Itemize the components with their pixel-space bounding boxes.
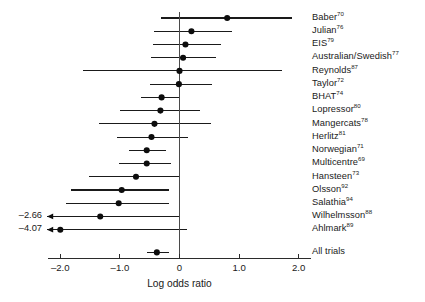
point-estimate-marker [144,160,150,166]
study-label: Hansteen73 [312,171,359,181]
x-axis-title: Log odds ratio [0,278,359,289]
study-name: Herlitz [312,131,339,141]
study-reference-number: 76 [337,23,344,30]
point-estimate-marker [188,28,194,34]
study-name: Ahlmark [312,223,346,233]
study-reference-number: 71 [357,142,364,149]
point-estimate-marker [116,200,122,206]
study-label: Australian/Swedish77 [312,51,399,61]
study-reference-number: 74 [336,89,343,96]
study-label: Herlitz81 [312,131,346,141]
study-label: Mangercats78 [312,118,368,128]
point-estimate-layer [57,15,230,256]
study-reference-number: 89 [346,221,353,228]
study-name: All trials [312,246,345,256]
point-estimate-marker [180,55,186,61]
study-name: Norwegian [312,144,357,154]
point-estimate-marker [157,108,163,114]
x-axis-tick-label: 2.0 [292,262,305,273]
point-estimate-marker [176,81,182,87]
study-label: Baber70 [312,12,344,22]
study-label: Norwegian71 [312,144,364,154]
study-reference-number: 79 [327,36,334,43]
study-name: Australian/Swedish [312,51,392,61]
study-name: Multicentre [312,157,358,167]
point-estimate-marker [97,213,103,219]
study-label: Wilhelmsson88 [312,210,372,220]
study-name: Hansteen [312,171,352,181]
study-label: All trials [312,246,345,256]
study-label: Multicentre69 [312,157,365,167]
confidence-interval-layer [47,18,292,252]
study-label: Salathia94 [312,197,353,207]
point-estimate-marker [151,121,157,127]
study-name: BHAT [312,91,336,101]
x-axis-tick-label: 1.0 [232,262,245,273]
study-name: Baber [312,12,337,22]
study-reference-number: 81 [339,129,346,136]
study-reference-number: 87 [351,63,358,70]
forest-plot-figure: Baber70Julian76EIS79Australian/Swedish77… [0,0,425,302]
point-estimate-marker [159,94,165,100]
study-name: Salathia [312,197,346,207]
study-label: Ahlmark89 [312,223,353,233]
study-reference-number: 94 [346,195,353,202]
point-estimate-marker [182,41,188,47]
study-label: Lopressor80 [312,104,361,114]
study-reference-number: 88 [365,208,372,215]
study-label: Reynolds87 [312,65,358,75]
study-name: Wilhelmsson [312,210,365,220]
study-label: Taylor72 [312,78,344,88]
study-label: BHAT74 [312,91,343,101]
point-estimate-marker [119,187,125,193]
study-name: Julian [312,25,337,35]
truncated-ci-value: –4.07 [0,223,42,233]
study-name: Mangercats [312,118,361,128]
study-reference-number: 69 [358,155,365,162]
study-label: Olsson92 [312,184,348,194]
truncated-ci-arrow-icon [47,227,53,233]
point-estimate-marker [154,249,160,255]
study-name: EIS [312,38,327,48]
study-reference-number: 70 [337,10,344,17]
study-name: Reynolds [312,65,351,75]
study-reference-number: 77 [392,49,399,56]
point-estimate-marker [148,134,154,140]
study-reference-number: 78 [361,116,368,123]
study-reference-number: 92 [341,182,348,189]
point-estimate-marker [224,15,230,21]
study-label: EIS79 [312,38,334,48]
x-axis-tick-label: –1.0 [111,262,130,273]
x-axis-tick-label: 0 [177,262,182,273]
study-reference-number: 72 [337,76,344,83]
point-estimate-marker [57,227,63,233]
point-estimate-marker [144,147,150,153]
x-axis-tick-label: –2.0 [51,262,70,273]
point-estimate-marker [133,174,139,180]
study-name: Lopressor [312,104,354,114]
point-estimate-marker [176,68,182,74]
truncated-ci-arrow-icon [47,214,53,220]
study-name: Taylor [312,78,337,88]
study-label: Julian76 [312,25,343,35]
study-name: Olsson [312,184,341,194]
study-reference-number: 73 [352,168,359,175]
truncated-ci-value: –2.66 [0,210,42,220]
study-reference-number: 80 [354,102,361,109]
x-axis-layer [48,254,310,259]
